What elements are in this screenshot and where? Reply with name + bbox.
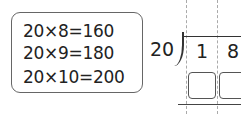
subtraction-line: [178, 104, 241, 105]
hint-box: 20×8=160 20×9=180 20×10=200: [11, 12, 143, 93]
answer-box-1[interactable]: [188, 72, 216, 99]
column-guide-1: [186, 0, 187, 114]
answer-box-2[interactable]: [219, 72, 241, 99]
division-vinculum: [182, 36, 241, 37]
division-bracket: [174, 32, 184, 66]
equation-1: 20×8=160: [23, 21, 114, 41]
equation-3: 20×10=200: [23, 67, 125, 87]
equation-2: 20×9=180: [23, 43, 114, 63]
dividend-digit-1: 1: [196, 40, 208, 62]
column-guide-2: [217, 0, 218, 114]
dividend-digit-2: 8: [227, 40, 239, 62]
divisor: 20: [150, 38, 174, 60]
